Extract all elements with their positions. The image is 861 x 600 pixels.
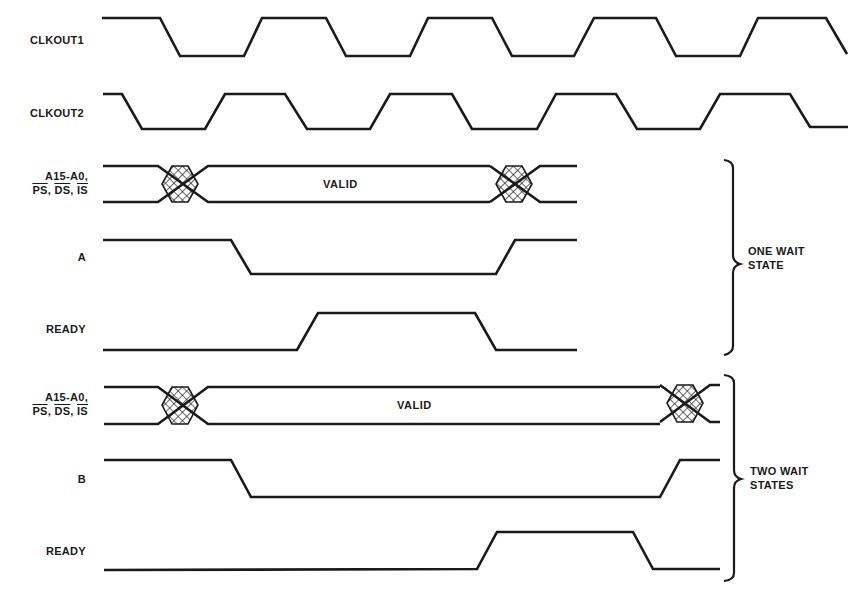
ready1-waveform bbox=[103, 313, 577, 350]
clkout2-waveform bbox=[103, 94, 848, 129]
bus1-waveform bbox=[103, 166, 577, 202]
a-waveform bbox=[103, 240, 577, 274]
waveforms bbox=[0, 0, 861, 600]
clkout1-waveform bbox=[102, 18, 847, 56]
one-wait-brace bbox=[724, 160, 740, 355]
b-waveform bbox=[104, 460, 720, 497]
timing-diagram: CLKOUT1 CLKOUT2 A15-A0, PS, DS, IS A REA… bbox=[0, 0, 861, 600]
two-wait-brace bbox=[724, 375, 741, 581]
bus2-waveform bbox=[104, 385, 720, 424]
ready2-waveform bbox=[104, 532, 720, 570]
